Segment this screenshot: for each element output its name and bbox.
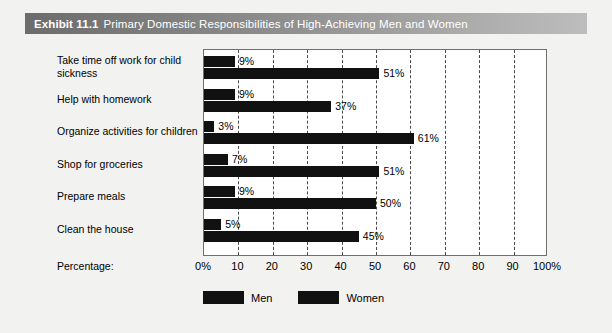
chart-plot-inner: 9%51%9%37%3%61%7%51%9%50%5%45%: [204, 50, 546, 255]
bar-value-label: 7%: [232, 154, 247, 165]
bar-men: [204, 121, 214, 132]
x-tick-label: 30: [300, 260, 312, 272]
bar-women: [204, 198, 376, 209]
bar-men: [204, 56, 235, 67]
bar-group: 5%45%: [204, 219, 546, 242]
exhibit-figure: Exhibit 11.1 Primary Domestic Responsibi…: [0, 0, 612, 333]
bar-women: [204, 231, 359, 242]
legend-item: Women: [298, 291, 384, 304]
x-tick-label: 0%: [195, 260, 211, 272]
legend-label: Women: [346, 292, 384, 304]
bar-value-label: 61%: [418, 133, 439, 144]
x-tick-label: 90: [506, 260, 518, 272]
legend-swatch: [298, 291, 339, 304]
legend-swatch: [203, 291, 244, 304]
bar-value-label: 37%: [335, 101, 356, 112]
bar-women: [204, 166, 379, 177]
bar-women: [204, 133, 414, 144]
legend-label: Men: [251, 292, 272, 304]
category-label: Take time off work for child sickness: [57, 54, 202, 79]
x-tick-label: 100%: [533, 260, 561, 272]
x-tick-label: 60: [403, 260, 415, 272]
chart-legend: MenWomen: [203, 291, 410, 304]
bar-group: 7%51%: [204, 154, 546, 177]
bar-value-label: 51%: [383, 68, 404, 79]
legend-item: Men: [203, 291, 272, 304]
bar-group: 9%51%: [204, 56, 546, 79]
bar-group: 9%37%: [204, 89, 546, 112]
bar-women: [204, 101, 331, 112]
bar-value-label: 9%: [239, 56, 254, 67]
bar-value-label: 45%: [363, 231, 384, 242]
category-label: Prepare meals: [57, 190, 202, 203]
bar-men: [204, 186, 235, 197]
x-tick-label: 80: [472, 260, 484, 272]
bar-value-label: 9%: [239, 186, 254, 197]
category-label: Shop for groceries: [57, 158, 202, 171]
exhibit-number: Exhibit 11.1: [34, 18, 98, 30]
bar-group: 9%50%: [204, 186, 546, 209]
bar-men: [204, 154, 228, 165]
x-tick-label: 40: [334, 260, 346, 272]
chart-plot-area: 9%51%9%37%3%61%7%51%9%50%5%45%: [203, 49, 547, 256]
exhibit-title-text: Primary Domestic Responsibilities of Hig…: [103, 18, 467, 30]
x-tick-label: 70: [438, 260, 450, 272]
x-tick-label: 20: [266, 260, 278, 272]
axis-title: Percentage:: [57, 260, 114, 272]
category-label: Help with homework: [57, 93, 202, 106]
bar-men: [204, 89, 235, 100]
bar-group: 3%61%: [204, 121, 546, 144]
category-label: Clean the house: [57, 223, 202, 236]
exhibit-title-bar: Exhibit 11.1 Primary Domestic Responsibi…: [25, 13, 587, 34]
bar-value-label: 9%: [239, 89, 254, 100]
x-tick-label: 50: [369, 260, 381, 272]
category-label: Organize activities for children: [57, 125, 202, 138]
bar-value-label: 50%: [380, 198, 401, 209]
bar-value-label: 5%: [225, 219, 240, 230]
bar-women: [204, 68, 379, 79]
bar-value-label: 51%: [383, 166, 404, 177]
bar-value-label: 3%: [218, 121, 233, 132]
bar-men: [204, 219, 221, 230]
x-tick-label: 10: [231, 260, 243, 272]
